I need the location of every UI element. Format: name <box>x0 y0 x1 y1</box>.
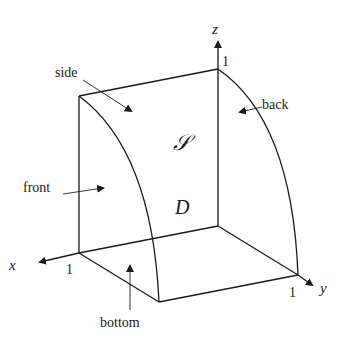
y-axis-label: y <box>318 280 327 296</box>
bottom-front-edge <box>79 253 159 302</box>
back-pointer <box>240 107 262 112</box>
z-axis-label: z <box>211 21 218 37</box>
y-tick-label: 1 <box>289 285 296 300</box>
front-label: front <box>23 180 50 195</box>
front-pointer <box>63 188 103 194</box>
diagram-canvas: z 1 x 1 y 1 side back front bottom 𝒮 D <box>0 0 342 342</box>
x-axis-label: x <box>8 257 16 273</box>
top-edge <box>79 69 218 96</box>
y-axis <box>298 275 312 285</box>
bottom-back-edge <box>79 226 218 253</box>
origin-to-y-edge <box>218 226 298 275</box>
x-axis <box>40 253 79 262</box>
surface-S-label: 𝒮 <box>173 130 196 155</box>
bottom-label: bottom <box>100 315 140 330</box>
side-label: side <box>55 65 78 80</box>
domain-D-label: D <box>174 196 190 218</box>
side-pointer <box>83 80 131 111</box>
front-curve <box>79 96 159 302</box>
back-label: back <box>262 97 288 112</box>
bottom-right-edge <box>159 275 298 302</box>
z-tick-label: 1 <box>222 54 229 69</box>
x-tick-label: 1 <box>66 262 73 277</box>
